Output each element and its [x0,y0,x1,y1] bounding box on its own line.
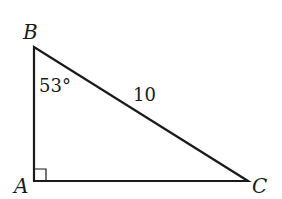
vertex-label-a: A [12,174,28,198]
vertex-label-c: C [252,174,267,198]
angle-b-label: 53° [39,75,71,96]
vertex-label-b: B [22,20,38,44]
hypotenuse-length-label: 10 [133,84,156,105]
triangle-abc [34,47,248,181]
triangle-diagram: B A C 53° 10 [0,0,282,199]
right-angle-marker [34,169,46,181]
